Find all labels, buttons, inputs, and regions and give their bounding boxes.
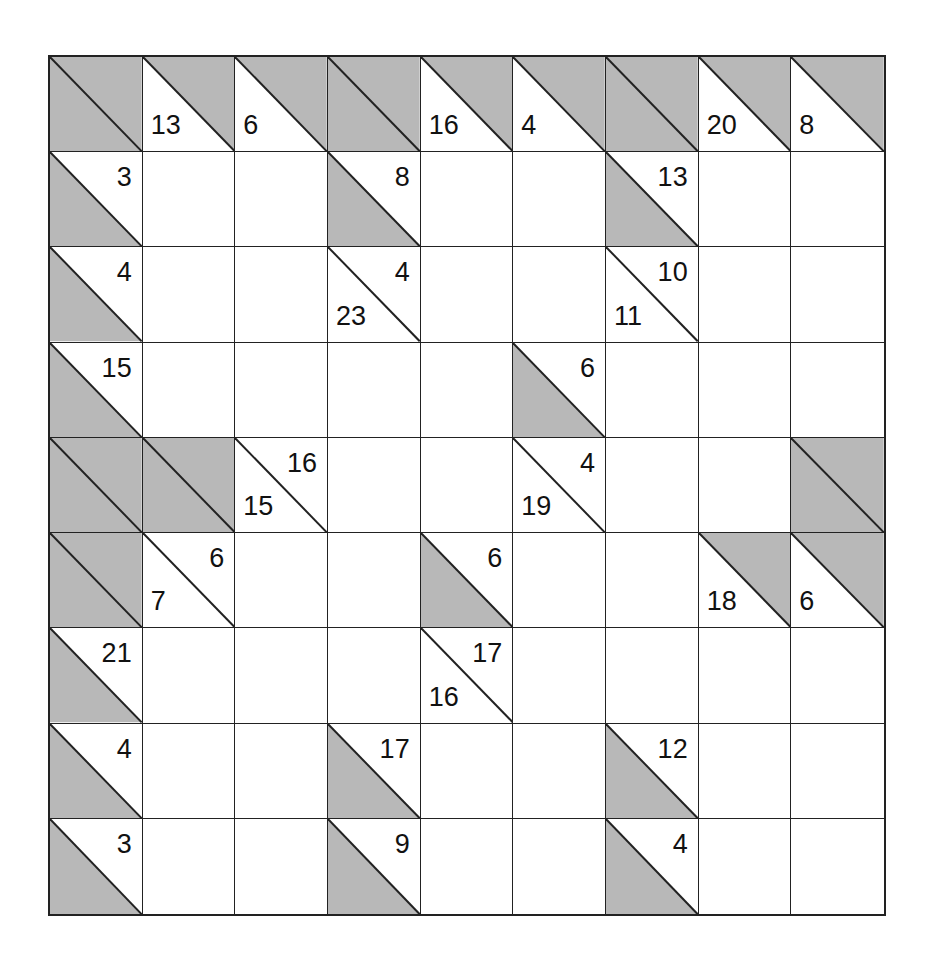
down-across-clue-cell: 1617 xyxy=(421,628,514,723)
across-clue: 4 xyxy=(673,831,688,858)
entry-cell[interactable] xyxy=(791,152,884,247)
blocked-cell xyxy=(50,438,143,533)
across-clue-cell: 13 xyxy=(606,152,699,247)
entry-cell[interactable] xyxy=(513,724,606,819)
entry-cell[interactable] xyxy=(143,343,236,438)
entry-cell[interactable] xyxy=(235,152,328,247)
across-clue: 4 xyxy=(395,259,410,286)
down-clue-cell: 16 xyxy=(421,57,514,152)
across-clue-cell: 3 xyxy=(50,152,143,247)
down-clue-cell: 13 xyxy=(143,57,236,152)
across-clue: 3 xyxy=(117,164,132,191)
across-clue: 10 xyxy=(658,259,688,286)
down-across-clue-cell: 234 xyxy=(328,247,421,342)
entry-cell[interactable] xyxy=(513,247,606,342)
entry-cell[interactable] xyxy=(235,247,328,342)
entry-cell[interactable] xyxy=(235,533,328,628)
diagonal-divider-icon xyxy=(143,438,235,532)
entry-cell[interactable] xyxy=(513,628,606,723)
entry-cell[interactable] xyxy=(421,343,514,438)
down-across-clue-cell: 76 xyxy=(143,533,236,628)
entry-cell[interactable] xyxy=(606,438,699,533)
entry-cell[interactable] xyxy=(791,343,884,438)
entry-cell[interactable] xyxy=(328,628,421,723)
down-across-clue-cell: 1110 xyxy=(606,247,699,342)
entry-cell[interactable] xyxy=(699,247,792,342)
entry-cell[interactable] xyxy=(791,724,884,819)
entry-cell[interactable] xyxy=(791,628,884,723)
entry-cell[interactable] xyxy=(235,724,328,819)
entry-cell[interactable] xyxy=(235,628,328,723)
across-clue-cell: 3 xyxy=(50,819,143,914)
kakuro-board: 1361642083813423411101561516194766186211… xyxy=(48,55,886,916)
entry-cell[interactable] xyxy=(421,724,514,819)
down-clue: 13 xyxy=(151,112,181,139)
diagonal-divider-icon xyxy=(50,438,142,532)
diagonal-divider-icon xyxy=(606,57,698,151)
entry-cell[interactable] xyxy=(235,819,328,914)
entry-cell[interactable] xyxy=(513,152,606,247)
across-clue-cell: 6 xyxy=(513,343,606,438)
across-clue-cell: 15 xyxy=(50,343,143,438)
across-clue-cell: 4 xyxy=(50,247,143,342)
entry-cell[interactable] xyxy=(328,533,421,628)
entry-cell[interactable] xyxy=(606,628,699,723)
blocked-cell xyxy=(606,57,699,152)
across-clue-cell: 9 xyxy=(328,819,421,914)
entry-cell[interactable] xyxy=(235,343,328,438)
across-clue-cell: 4 xyxy=(50,724,143,819)
down-clue-cell: 6 xyxy=(791,533,884,628)
entry-cell[interactable] xyxy=(699,343,792,438)
down-clue: 19 xyxy=(521,493,551,520)
across-clue: 3 xyxy=(117,831,132,858)
down-clue: 7 xyxy=(151,588,166,615)
across-clue: 6 xyxy=(580,355,595,382)
diagonal-divider-icon xyxy=(50,57,142,151)
entry-cell[interactable] xyxy=(421,819,514,914)
across-clue-cell: 6 xyxy=(421,533,514,628)
entry-cell[interactable] xyxy=(699,724,792,819)
down-clue: 18 xyxy=(707,588,737,615)
entry-cell[interactable] xyxy=(421,438,514,533)
entry-cell[interactable] xyxy=(513,819,606,914)
down-clue-cell: 8 xyxy=(791,57,884,152)
entry-cell[interactable] xyxy=(143,819,236,914)
across-clue: 6 xyxy=(209,545,224,572)
blocked-cell xyxy=(50,57,143,152)
blocked-cell xyxy=(50,533,143,628)
entry-cell[interactable] xyxy=(421,152,514,247)
entry-cell[interactable] xyxy=(699,438,792,533)
across-clue: 13 xyxy=(658,164,688,191)
entry-cell[interactable] xyxy=(791,247,884,342)
entry-cell[interactable] xyxy=(606,533,699,628)
down-clue: 6 xyxy=(799,588,814,615)
entry-cell[interactable] xyxy=(328,343,421,438)
entry-cell[interactable] xyxy=(143,247,236,342)
entry-cell[interactable] xyxy=(143,628,236,723)
down-clue: 16 xyxy=(429,684,459,711)
across-clue-cell: 21 xyxy=(50,628,143,723)
down-across-clue-cell: 194 xyxy=(513,438,606,533)
across-clue: 4 xyxy=(117,259,132,286)
across-clue-cell: 8 xyxy=(328,152,421,247)
across-clue: 15 xyxy=(102,355,132,382)
down-across-clue-cell: 1516 xyxy=(235,438,328,533)
entry-cell[interactable] xyxy=(699,819,792,914)
down-clue-cell: 20 xyxy=(699,57,792,152)
entry-cell[interactable] xyxy=(421,247,514,342)
across-clue: 4 xyxy=(580,450,595,477)
entry-cell[interactable] xyxy=(328,438,421,533)
down-clue: 20 xyxy=(707,112,737,139)
across-clue: 8 xyxy=(395,164,410,191)
diagonal-divider-icon xyxy=(791,438,884,532)
across-clue: 4 xyxy=(117,736,132,763)
entry-cell[interactable] xyxy=(513,533,606,628)
across-clue-cell: 4 xyxy=(606,819,699,914)
down-clue: 8 xyxy=(799,112,814,139)
entry-cell[interactable] xyxy=(606,343,699,438)
entry-cell[interactable] xyxy=(791,819,884,914)
entry-cell[interactable] xyxy=(143,724,236,819)
entry-cell[interactable] xyxy=(143,152,236,247)
entry-cell[interactable] xyxy=(699,628,792,723)
entry-cell[interactable] xyxy=(699,152,792,247)
